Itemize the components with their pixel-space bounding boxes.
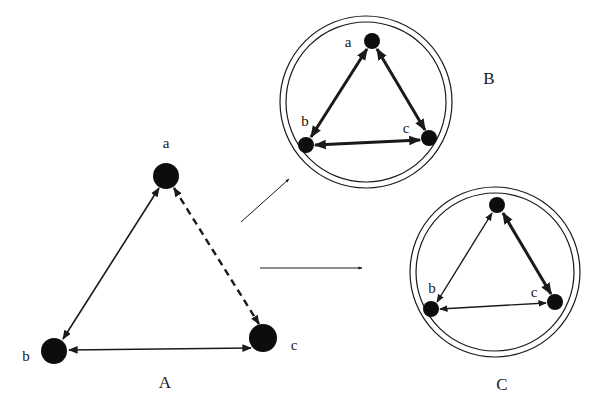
diagram-a: a b c A bbox=[22, 135, 297, 392]
node-b bbox=[423, 301, 439, 317]
diagram-c: b c C bbox=[410, 187, 580, 394]
inner-ring bbox=[416, 193, 574, 351]
node-c bbox=[421, 130, 437, 146]
edge-a-c bbox=[503, 213, 551, 294]
network-diagram: a b c A a b c B b c C bbox=[0, 0, 599, 406]
label-c: c bbox=[291, 337, 298, 353]
node-c bbox=[547, 294, 563, 310]
label-b: b bbox=[22, 348, 30, 364]
node-a bbox=[489, 197, 505, 213]
label-b: b bbox=[428, 280, 436, 296]
label-a: a bbox=[345, 34, 352, 50]
node-a bbox=[153, 163, 179, 189]
label-b: b bbox=[301, 113, 309, 129]
caption-a: A bbox=[159, 373, 172, 392]
label-c: c bbox=[531, 284, 538, 300]
caption-c: C bbox=[496, 375, 507, 394]
edge-b-c bbox=[69, 348, 251, 350]
node-b bbox=[298, 137, 314, 153]
edge-a-c-dashed bbox=[174, 188, 259, 324]
edge-a-c bbox=[377, 49, 425, 130]
node-b bbox=[41, 338, 67, 364]
node-a bbox=[364, 33, 380, 49]
label-a: a bbox=[163, 135, 170, 151]
diagram-b: a b c B bbox=[280, 16, 495, 188]
transition-arrow-to-b bbox=[241, 179, 289, 222]
edge-a-b bbox=[437, 213, 492, 302]
label-c: c bbox=[403, 120, 410, 136]
edge-b-c bbox=[440, 303, 546, 309]
caption-b: B bbox=[483, 69, 494, 88]
edge-a-b bbox=[311, 49, 367, 137]
node-c bbox=[249, 324, 277, 352]
edge-b-c bbox=[315, 140, 420, 145]
edge-a-b bbox=[63, 188, 159, 339]
